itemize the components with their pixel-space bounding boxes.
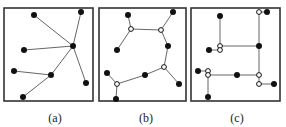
edge bbox=[145, 67, 164, 75]
edge bbox=[14, 71, 51, 75]
panel-c bbox=[191, 8, 280, 101]
steiner-node bbox=[206, 73, 211, 78]
steiner-node bbox=[162, 65, 167, 70]
panel-a bbox=[4, 8, 93, 101]
panel-border bbox=[99, 8, 186, 101]
steiner-node bbox=[129, 27, 134, 32]
terminal-node bbox=[125, 12, 131, 18]
panel-label-b: (b) bbox=[139, 111, 153, 126]
edge bbox=[73, 46, 86, 83]
edge bbox=[51, 46, 73, 75]
edge bbox=[73, 12, 81, 46]
edge bbox=[24, 46, 73, 50]
terminal-node bbox=[206, 47, 212, 53]
panel-label-c: (c) bbox=[230, 111, 243, 126]
steiner-node bbox=[257, 73, 262, 78]
terminal-node bbox=[271, 81, 277, 87]
terminal-node bbox=[176, 81, 182, 87]
terminal-node bbox=[256, 43, 262, 49]
edge bbox=[117, 75, 145, 84]
terminal-node bbox=[142, 72, 148, 78]
terminal-node bbox=[170, 9, 176, 15]
panel-border bbox=[4, 8, 93, 101]
terminal-node bbox=[11, 68, 17, 74]
edge bbox=[164, 46, 168, 67]
terminal-node bbox=[217, 13, 223, 19]
terminal-node bbox=[31, 12, 37, 18]
terminal-node bbox=[264, 9, 270, 15]
terminal-node bbox=[165, 43, 171, 49]
terminal-node bbox=[113, 96, 119, 102]
steiner-tree-diagram bbox=[0, 0, 286, 127]
edge bbox=[164, 67, 179, 84]
terminal-node bbox=[83, 80, 89, 86]
steiner-node bbox=[257, 10, 262, 15]
terminal-node bbox=[70, 43, 76, 49]
steiner-node bbox=[115, 82, 120, 87]
terminal-node bbox=[205, 94, 211, 100]
steiner-node bbox=[257, 82, 262, 87]
edge bbox=[34, 15, 73, 46]
terminal-node bbox=[78, 9, 84, 15]
panel-border bbox=[191, 8, 280, 101]
terminal-node bbox=[21, 47, 27, 53]
edge bbox=[131, 29, 161, 30]
terminal-node bbox=[20, 94, 26, 100]
panel-b bbox=[99, 8, 186, 102]
steiner-node bbox=[159, 28, 164, 33]
terminal-node bbox=[234, 72, 240, 78]
terminal-node bbox=[114, 47, 120, 53]
terminal-node bbox=[48, 72, 54, 78]
panel-label-a: (a) bbox=[48, 111, 61, 126]
edge bbox=[23, 75, 51, 97]
edge bbox=[117, 29, 131, 50]
terminal-node bbox=[195, 68, 201, 74]
edge bbox=[161, 12, 173, 30]
terminal-node bbox=[104, 70, 110, 76]
steiner-node bbox=[218, 48, 223, 53]
